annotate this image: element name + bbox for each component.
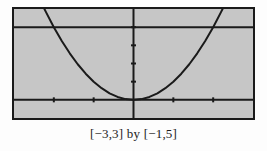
window-dimensions-caption: [−3,3] by [−1,5] xyxy=(12,126,255,141)
graphing-calculator-figure: [−3,3] by [−1,5] xyxy=(0,0,267,151)
plot-svg xyxy=(14,9,253,118)
calculator-viewing-window xyxy=(12,7,255,120)
